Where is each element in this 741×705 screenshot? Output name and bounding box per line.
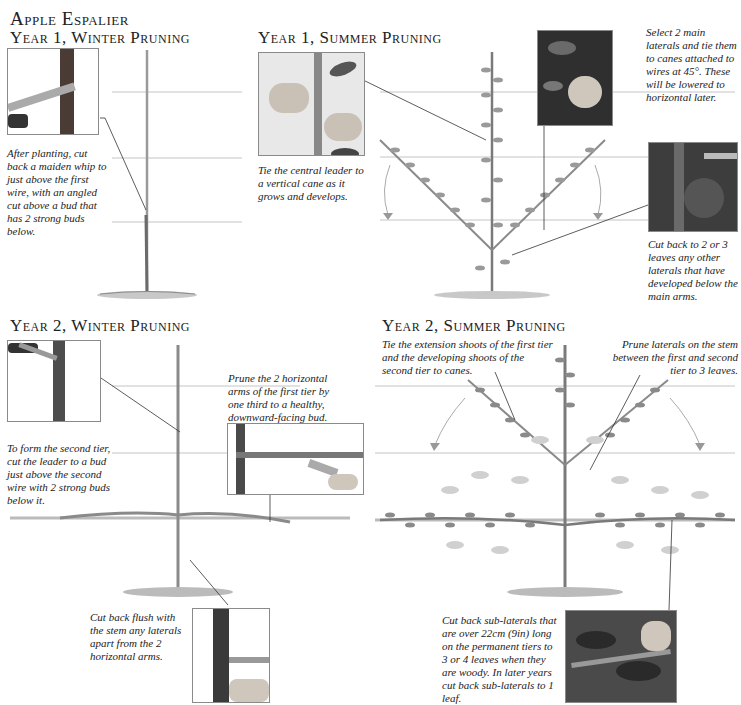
inset-y1-summer-cutback [648, 142, 738, 232]
inset-y2-winter-arms [227, 423, 364, 495]
inset-y1-summer-tie [258, 52, 365, 156]
inset-y2-winter-flush-cut [192, 608, 270, 703]
caption-y2-summer-sublaterals: Cut back sub-laterals that are over 22cm… [442, 614, 560, 705]
caption-y2-summer-prune: Prune laterals on the stem between the f… [600, 338, 738, 377]
caption-y2-winter-leader: To form the second tier, cut the leader … [7, 442, 117, 507]
inset-y2-summer-sublaterals [565, 610, 677, 703]
caption-y1-winter: After planting, cut back a maiden whip t… [7, 147, 107, 238]
y1-winter-diagram [97, 50, 242, 299]
inset-y2-winter-leader [7, 340, 101, 422]
caption-y1-summer-select: Select 2 main laterals and tie them to c… [646, 26, 741, 104]
caption-y2-winter-arms: Prune the 2 horizontal arms of the first… [228, 372, 343, 424]
caption-y2-winter-flush: Cut back flush with the stem any lateral… [90, 611, 190, 663]
y2-summer-diagram [375, 345, 735, 640]
caption-y1-summer-tie: Tie the central leader to a vertical can… [258, 164, 368, 203]
inset-y1-winter-cut [7, 48, 99, 135]
inset-y1-summer-laterals [537, 30, 613, 126]
caption-y1-summer-cutback: Cut back to 2 or 3 leaves any other late… [648, 238, 740, 303]
caption-y2-summer-tie: Tie the extension shoots of the first ti… [382, 338, 557, 377]
